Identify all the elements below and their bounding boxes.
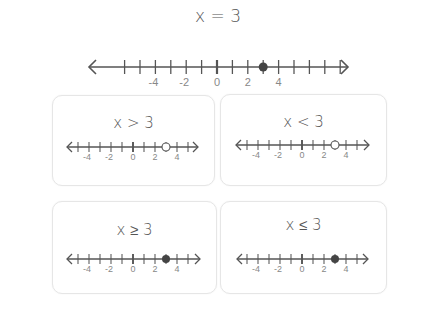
tick-label: -2	[274, 150, 282, 160]
tick-label: 0	[299, 264, 304, 274]
tick-label: 2	[321, 150, 326, 160]
tick-label: -2	[105, 152, 113, 162]
card-number-lines: -4-2024-4-2024-4-2024-4-2024	[0, 0, 436, 330]
tick-label: 0	[130, 264, 135, 274]
tick-label: 4	[174, 152, 179, 162]
number-line: -4-2024	[237, 254, 368, 274]
tick-label: 2	[321, 264, 326, 274]
number-line: -4-2024	[236, 140, 369, 160]
closed-point-icon	[162, 255, 170, 263]
tick-label: -4	[83, 264, 91, 274]
tick-label: -2	[105, 264, 113, 274]
tick-label: 4	[343, 150, 348, 160]
number-line: -4-2024	[67, 142, 198, 162]
tick-label: 0	[299, 150, 304, 160]
tick-label: 2	[152, 152, 157, 162]
tick-label: -2	[274, 264, 282, 274]
tick-label: -4	[252, 150, 260, 160]
tick-label: 4	[174, 264, 179, 274]
tick-label: -4	[83, 152, 91, 162]
tick-label: 2	[152, 264, 157, 274]
open-point-icon	[162, 143, 170, 151]
open-point-icon	[331, 141, 339, 149]
tick-label: 4	[343, 264, 348, 274]
closed-point-icon	[331, 255, 339, 263]
number-line: -4-2024	[67, 254, 200, 274]
tick-label: 0	[130, 152, 135, 162]
tick-label: -4	[252, 264, 260, 274]
